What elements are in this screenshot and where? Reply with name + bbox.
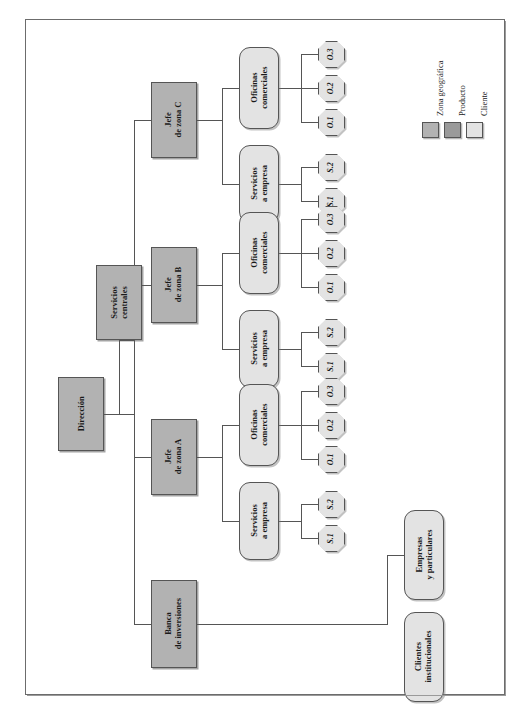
leaf-c-s2[interactable]: S.2 <box>318 154 345 181</box>
node-direccion[interactable]: Dirección <box>58 377 104 451</box>
leaf-a-s1-wrap: S.1 <box>318 525 345 552</box>
ofi-b-l1: Oficinas <box>248 238 258 268</box>
leaf-b-o3-wrap: O.3 <box>318 206 345 233</box>
ofi-c-l2: comerciales <box>258 67 268 109</box>
leaf-c-s2-label: S.2 <box>327 162 336 172</box>
ser-a-l2: a empresa <box>258 503 268 540</box>
leaf-a-s1-label: S.1 <box>327 533 336 543</box>
edge-trunk-banca <box>134 624 152 625</box>
oficinas-c-label: Oficinas comerciales <box>249 67 268 109</box>
legend-swatch-cliente <box>466 122 483 138</box>
clientes-inst-label: Clientes institucionales <box>414 631 433 683</box>
leaf-b-o2[interactable]: O.2 <box>318 240 345 267</box>
node-jefe-zona-b[interactable]: Jefe de zona B <box>151 247 197 323</box>
node-jefe-zona-a[interactable]: Jefe de zona A <box>151 419 197 495</box>
edge-zonac-split <box>197 120 222 121</box>
leaf-a-o2-label: O.2 <box>327 420 336 432</box>
zonac-line2: de zona C <box>173 102 183 138</box>
node-banca-inversiones-label: Banca de inversiones <box>164 598 183 649</box>
edge-c-s1 <box>301 201 318 202</box>
leaf-a-s2-wrap: S.2 <box>318 491 345 518</box>
legend-label-producto: Producto <box>457 85 467 116</box>
edge-banca-split <box>197 624 387 625</box>
ofi-a-l1: Oficinas <box>248 410 258 440</box>
node-clientes-institucionales[interactable]: Clientes institucionales <box>404 612 444 702</box>
edge-zonac-oficinas <box>222 88 239 89</box>
node-empresas-particulares[interactable]: Empresas y particulares <box>404 510 444 600</box>
legend-swatch-zona-geografica <box>422 122 439 138</box>
legend-swatch-producto <box>444 122 461 138</box>
edge-a-o2 <box>301 425 318 426</box>
node-servicios-empresa-a[interactable]: Servicios a empresa <box>239 482 279 560</box>
node-banca-inversiones[interactable]: Banca de inversiones <box>151 580 197 668</box>
leaf-c-o3[interactable]: O.3 <box>318 41 345 68</box>
leaf-b-s2[interactable]: S.2 <box>318 319 345 346</box>
leaf-c-o2-label: O.2 <box>327 83 336 95</box>
legend-label-zona-geografica: Zona geográfica <box>435 61 445 116</box>
node-direccion-label: Dirección <box>76 397 86 432</box>
node-oficinas-comerciales-b[interactable]: Oficinas comerciales <box>239 212 279 294</box>
node-servicios-centrales[interactable]: Servicios centrales <box>96 265 142 340</box>
ofi-b-l2: comerciales <box>258 232 268 274</box>
edge-zonab-servicios <box>222 349 239 350</box>
leaf-b-o3[interactable]: O.3 <box>318 206 345 233</box>
node-servicios-empresa-b[interactable]: Servicios a empresa <box>239 310 279 388</box>
edge-trunk-zona-a <box>134 457 152 458</box>
cli-l2: institucionales <box>423 631 433 683</box>
edge-c-o2 <box>301 88 318 89</box>
leaf-a-o3[interactable]: O.3 <box>318 378 345 405</box>
edge-a-o3 <box>301 391 318 392</box>
edge-zonac-bus <box>222 88 223 184</box>
node-oficinas-comerciales-c[interactable]: Oficinas comerciales <box>239 47 279 129</box>
ser-c-l1: Servicios <box>248 168 258 201</box>
edge-banca-empresas <box>387 555 404 556</box>
leaf-a-o1[interactable]: O.1 <box>318 446 345 473</box>
leaf-b-s1-wrap: S.1 <box>318 353 345 380</box>
edge-zonab-split <box>197 285 222 286</box>
leaf-c-o1[interactable]: O.1 <box>318 109 345 136</box>
leaf-a-o1-label: O.1 <box>327 454 336 466</box>
leaf-b-s2-wrap: S.2 <box>318 319 345 346</box>
edge-direccion-trunk <box>104 414 134 415</box>
edge-c-servicios-bus <box>301 167 302 201</box>
emp-l2: y particulares <box>423 530 433 580</box>
ser-a-l1: Servicios <box>248 505 258 538</box>
edge-a-servicios-split <box>279 521 301 522</box>
banca-line2: de inversiones <box>173 598 183 649</box>
edge-zonab-bus <box>222 253 223 349</box>
edge-c-o1 <box>301 122 318 123</box>
edge-c-s2 <box>301 167 318 168</box>
node-oficinas-comerciales-a[interactable]: Oficinas comerciales <box>239 384 279 466</box>
node-jefe-zona-c[interactable]: Jefe de zona C <box>151 82 197 158</box>
node-servicios-centrales-label: Servicios centrales <box>109 286 128 319</box>
leaf-c-o1-label: O.1 <box>327 117 336 129</box>
leaf-b-o1[interactable]: O.1 <box>318 274 345 301</box>
node-jefe-zona-c-label: Jefe de zona C <box>164 102 183 138</box>
edge-trunk-main <box>134 120 135 624</box>
edge-zonab-oficinas <box>222 253 239 254</box>
leaf-a-s1[interactable]: S.1 <box>318 525 345 552</box>
node-jefe-zona-a-label: Jefe de zona A <box>164 439 183 474</box>
ofi-c-l1: Oficinas <box>248 73 258 103</box>
leaf-a-o2[interactable]: O.2 <box>318 412 345 439</box>
edge-zonaa-oficinas <box>222 425 239 426</box>
edge-zonaa-bus <box>222 425 223 521</box>
leaf-a-s2[interactable]: S.2 <box>318 491 345 518</box>
diagram-page: Dirección Servicios centrales Jefe de zo… <box>0 0 523 715</box>
emp-l1: Empresas <box>413 537 423 573</box>
servicios-c-label: Servicios a empresa <box>249 166 268 203</box>
edge-b-o2 <box>301 253 318 254</box>
edge-a-o1 <box>301 459 318 460</box>
edge-b-servicios-split <box>279 349 301 350</box>
edge-a-s2 <box>301 504 318 505</box>
edge-b-oficinas-split <box>279 253 301 254</box>
edge-zonac-servicios <box>222 184 239 185</box>
leaf-b-s1[interactable]: S.1 <box>318 353 345 380</box>
edge-trunk-zona-c <box>134 120 152 121</box>
legend: Zona geográfica Producto Cliente <box>422 34 492 164</box>
leaf-c-o2[interactable]: O.2 <box>318 75 345 102</box>
zonaa-line2: de zona A <box>173 439 183 474</box>
ser-c-l2: a empresa <box>258 166 268 203</box>
leaf-b-o1-wrap: O.1 <box>318 274 345 301</box>
leaf-c-o3-wrap: O.3 <box>318 41 345 68</box>
